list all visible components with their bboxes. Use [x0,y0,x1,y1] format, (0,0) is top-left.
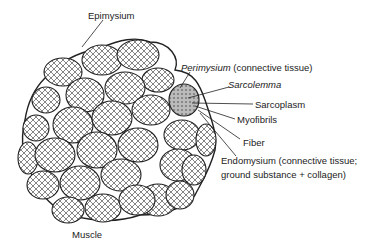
muscle-diagram [0,0,370,251]
label-sarcoplasm: Sarcoplasm [255,99,305,110]
label-perimysium-desc: (connective tissue) [231,62,313,73]
label-fiber: Fiber [243,137,265,148]
label-perimysium-term: Perimysium [181,62,231,73]
label-endomysium-line1: Endomysium (connective tissue; [221,155,357,166]
shaded-fascicle [169,84,199,116]
label-endomysium-line2: ground substance + collagen) [221,169,346,180]
label-myofibrils: Myofibrils [237,114,277,125]
label-muscle: Muscle [72,229,102,240]
label-perimysium: Perimysium (connective tissue) [181,62,312,73]
label-sarcolemma: Sarcolemma [228,79,281,90]
label-epimysium: Epimysium [88,10,134,21]
